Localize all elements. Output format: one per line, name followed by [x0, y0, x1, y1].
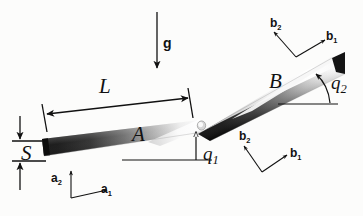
frame-b-upper-y-subscript: 2: [277, 23, 281, 32]
angle-2-symbol: q: [331, 72, 341, 93]
frame-b-lower-y-label: b2: [239, 130, 250, 142]
frame-a-y-symbol: a: [51, 171, 58, 185]
frame-a-y-label: a2: [51, 172, 62, 184]
frame-b-upper-x-subscript: 1: [333, 36, 337, 45]
frame-a-x-subscript: 1: [108, 189, 112, 198]
gravity-label: g: [163, 36, 172, 50]
angle-1-subscript: 1: [213, 153, 219, 167]
frame-b-axes-lower: [244, 146, 287, 172]
angle-1-label: q1: [203, 144, 219, 163]
frame-b-lower-x-label: b1: [290, 147, 301, 159]
frame-b-upper-x-label: b1: [326, 30, 337, 42]
angle-2-subscript: 2: [341, 82, 347, 96]
mechanics-figure: g L S A B q1 q2 a1 a2 b1 b2 b1 b2: [0, 0, 363, 216]
beam-a: [42, 119, 205, 156]
joint: [197, 121, 205, 130]
angle-1-symbol: q: [203, 143, 213, 164]
angle-2-label: q2: [331, 73, 347, 92]
frame-b-upper-y-label: b2: [270, 17, 281, 29]
link-a-label: A: [132, 124, 145, 145]
frame-b-lower-y-subscript: 2: [246, 136, 250, 145]
frame-a-x-label: a1: [101, 183, 112, 195]
frame-a-x-symbol: a: [101, 182, 108, 196]
thickness-label: S: [21, 143, 32, 164]
frame-a-y-subscript: 2: [58, 178, 62, 187]
link-b-label: B: [269, 71, 282, 92]
frame-b-axes-upper: [274, 32, 325, 57]
beam-b: [198, 52, 345, 141]
length-label: L: [99, 76, 111, 97]
frame-b-lower-x-subscript: 1: [297, 153, 301, 162]
